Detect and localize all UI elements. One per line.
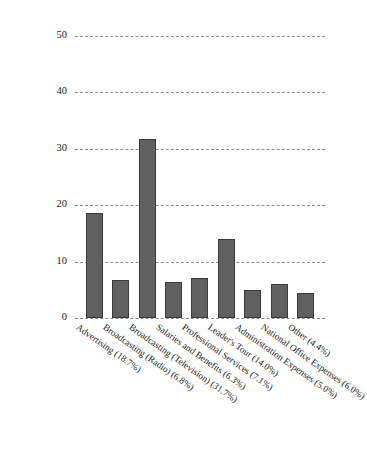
bar-slot [213,36,239,318]
bar-slot [293,36,319,318]
bar[interactable] [86,213,103,318]
y-tick-label-50: 50 [21,29,67,40]
y-tick-label-40: 40 [21,85,67,96]
bar-slot [266,36,292,318]
y-tick-label-10: 10 [21,255,67,266]
bar[interactable] [244,290,261,318]
bar[interactable] [139,139,156,318]
y-tick-label-20: 20 [21,198,67,209]
bar[interactable] [165,282,182,318]
x-tick-label: National Office Expenses (6.0%) [260,322,367,401]
x-axis-category-labels: Advertising (18.7%)Broadcasting (Radio) … [75,322,325,452]
plot-area [75,36,325,318]
y-tick-label-0: 0 [21,311,67,322]
bar-slot [240,36,266,318]
bar[interactable] [271,284,288,318]
y-tick-label-30: 30 [21,142,67,153]
bar-slot [81,36,107,318]
bar-slot [134,36,160,318]
bars-group [75,36,325,318]
bar[interactable] [297,293,314,318]
bar[interactable] [218,239,235,318]
bar-slot [187,36,213,318]
x-tick-label: Administration Expenses (5.0%) [233,322,339,401]
gridline-0 [75,318,325,319]
bar-slot [107,36,133,318]
bar-slot [160,36,186,318]
bar[interactable] [112,280,129,318]
bar[interactable] [191,278,208,318]
